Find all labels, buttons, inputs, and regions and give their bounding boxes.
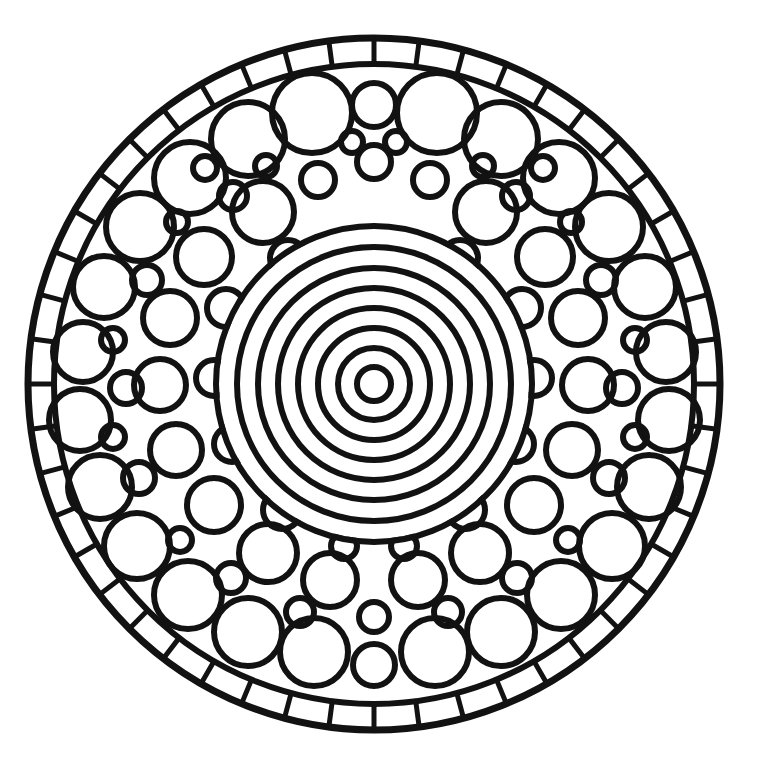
band-divider xyxy=(416,701,419,727)
mandala-canvas xyxy=(0,0,776,772)
concentric-bullseye-group xyxy=(216,226,532,542)
band-divider xyxy=(416,41,419,67)
mandala-artwork xyxy=(0,0,776,772)
band-divider xyxy=(329,41,332,67)
bullseye-field xyxy=(219,229,529,539)
band-divider xyxy=(329,701,332,727)
band-divider xyxy=(691,426,717,429)
